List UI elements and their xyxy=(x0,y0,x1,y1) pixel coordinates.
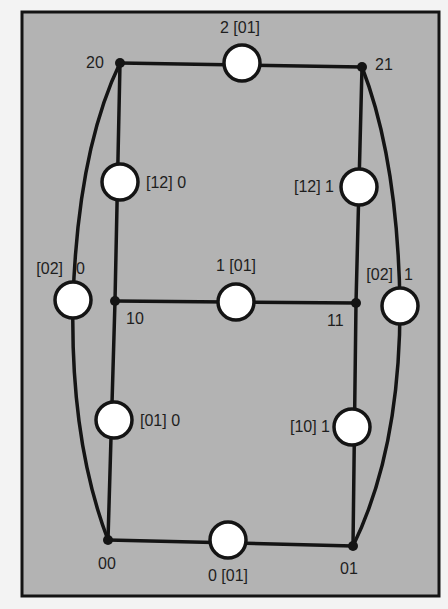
edge-label-12-0: [12] 0 xyxy=(146,174,186,191)
edge-label-01-0: [01] 0 xyxy=(140,412,180,429)
vertex-label-01: 01 xyxy=(340,560,358,577)
vertex-21 xyxy=(357,62,367,72)
vertex-10 xyxy=(110,296,120,306)
edge-label-02-1-a: [02] xyxy=(366,266,393,283)
edge-label-12-1: [12] 1 xyxy=(294,178,334,195)
marker-02-0 xyxy=(55,282,91,318)
marker-01-0 xyxy=(96,402,132,438)
marker-12-0 xyxy=(102,164,138,200)
marker-0-01 xyxy=(210,522,246,558)
marker-2-01 xyxy=(224,45,260,81)
marker-02-1 xyxy=(382,288,418,324)
edge-label-02-0-b: 0 xyxy=(76,260,85,277)
vertex-00 xyxy=(103,535,113,545)
vertex-label-10: 10 xyxy=(126,310,144,327)
edge-label-1-01: 1 [01] xyxy=(216,257,256,274)
vertex-20 xyxy=(115,58,125,68)
edge-label-2-01: 2 [01] xyxy=(220,19,260,36)
vertex-label-21: 21 xyxy=(375,56,393,73)
vertex-label-00: 00 xyxy=(98,555,116,572)
marker-12-1 xyxy=(341,169,377,205)
edge-label-02-1-b: 1 xyxy=(404,266,413,283)
edge-label-02-0-a: [02] xyxy=(36,260,63,277)
edge-label-0-01: 0 [01] xyxy=(208,567,248,584)
marker-10-1 xyxy=(334,409,370,445)
vertex-label-11: 11 xyxy=(327,312,344,329)
edge-label-10-1: [10] 1 xyxy=(290,418,330,435)
vertex-label-20: 20 xyxy=(86,54,104,71)
vertex-11 xyxy=(351,298,361,308)
marker-1-01 xyxy=(218,284,254,320)
hypercube-diagram: 20 21 10 11 00 01 2 [01] 1 [01] 0 [01] [… xyxy=(0,0,448,609)
vertex-01 xyxy=(348,541,358,551)
